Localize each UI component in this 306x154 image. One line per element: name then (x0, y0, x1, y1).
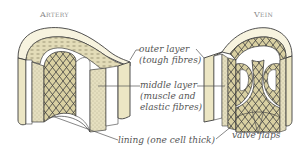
middle-layer-label-name: middle layer (140, 80, 202, 91)
valve-flaps-label: valve flaps (232, 130, 280, 141)
middle-layer-label: middle layer (muscle and elastic fibres) (140, 80, 202, 113)
outer-layer-label-name: outer layer (139, 44, 201, 55)
lining-leader-vein (216, 126, 232, 139)
vein-illustration (204, 28, 292, 132)
middle-layer-label-detail-2: elastic fibres) (140, 102, 202, 113)
vein-title: Vein (254, 11, 273, 19)
artery-title: Artery (40, 11, 69, 19)
artery-illustration (18, 28, 130, 132)
artery-vein-diagram: Artery Vein outer layer (tough fibres) m… (0, 0, 306, 154)
lining-label: lining (one cell thick) (118, 135, 215, 146)
outer-layer-label: outer layer (tough fibres) (139, 44, 201, 66)
outer-layer-label-detail: (tough fibres) (139, 55, 201, 66)
middle-layer-label-detail-1: (muscle and (140, 91, 202, 102)
